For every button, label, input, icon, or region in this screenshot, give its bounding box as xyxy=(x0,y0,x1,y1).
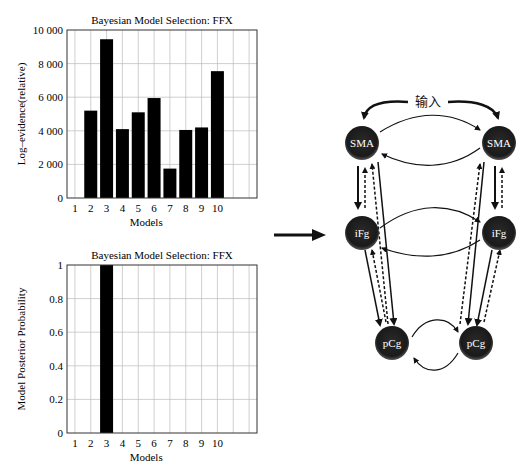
x-tick-label: 7 xyxy=(167,202,173,214)
y-tick-label: 10 000 xyxy=(33,24,64,36)
x-tick-label: 5 xyxy=(136,437,142,449)
node-sma-right: SMA xyxy=(482,126,516,160)
input-arrow-right xyxy=(448,102,498,118)
bar xyxy=(132,112,145,198)
y-axis-label: Log–evidence(relative) xyxy=(15,62,28,165)
y-tick-label: 4 000 xyxy=(38,125,63,137)
bar xyxy=(179,130,192,198)
x-tick-label: 4 xyxy=(120,437,126,449)
bar xyxy=(100,265,113,433)
bar xyxy=(163,169,176,198)
x-axis-label: Models xyxy=(130,216,163,228)
x-axis-label: Models xyxy=(130,451,163,463)
x-tick-label: 2 xyxy=(88,437,94,449)
bar xyxy=(84,111,97,198)
y-tick-label: 2 000 xyxy=(38,158,63,170)
bar xyxy=(148,98,161,198)
bar xyxy=(116,129,129,198)
y-tick-label: 6 000 xyxy=(38,91,63,103)
node-pcg-right: pCg xyxy=(459,326,493,360)
svg-text:pCg: pCg xyxy=(467,337,486,349)
x-tick-label: 10 xyxy=(212,437,224,449)
y-tick-label: 0 xyxy=(58,427,64,439)
y-tick-label: 0.4 xyxy=(49,360,63,372)
x-tick-label: 6 xyxy=(151,202,157,214)
input-label: 输入 xyxy=(415,94,441,109)
y-axis-label: Model Posterior Probability xyxy=(15,287,27,410)
x-tick-label: 6 xyxy=(151,437,157,449)
y-tick-label: 8 000 xyxy=(38,58,63,70)
x-tick-label: 8 xyxy=(183,202,189,214)
log-evidence-chart: Bayesian Model Selection: FFX02 0004 000… xyxy=(0,0,270,235)
network-diagram-svg: 输入 SMA SMA xyxy=(330,70,530,390)
x-tick-label: 3 xyxy=(104,437,110,449)
chart-title: Bayesian Model Selection: FFX xyxy=(91,14,233,26)
x-tick-label: 1 xyxy=(72,202,78,214)
x-tick-label: 3 xyxy=(104,202,110,214)
posterior-probability-chart-svg: Bayesian Model Selection: FFX00.20.40.60… xyxy=(0,240,270,473)
x-tick-label: 9 xyxy=(199,202,205,214)
bar xyxy=(211,71,224,198)
svg-text:pCg: pCg xyxy=(383,337,402,349)
y-tick-label: 0 xyxy=(58,192,64,204)
svg-text:SMA: SMA xyxy=(487,137,511,149)
x-tick-label: 4 xyxy=(120,202,126,214)
x-tick-label: 5 xyxy=(136,202,142,214)
x-tick-label: 7 xyxy=(167,437,173,449)
svg-text:SMA: SMA xyxy=(350,137,374,149)
svg-text:iFg: iFg xyxy=(355,227,370,239)
bar xyxy=(195,127,208,198)
y-tick-label: 0.8 xyxy=(49,293,63,305)
x-tick-label: 10 xyxy=(212,202,224,214)
posterior-probability-chart: Bayesian Model Selection: FFX00.20.40.60… xyxy=(0,240,270,473)
y-tick-label: 0.2 xyxy=(49,393,63,405)
y-tick-label: 0.6 xyxy=(49,326,63,338)
right-arrow-icon xyxy=(270,225,330,245)
svg-text:iFg: iFg xyxy=(492,227,507,239)
y-tick-label: 1 xyxy=(58,259,64,271)
x-tick-label: 2 xyxy=(88,202,94,214)
x-tick-label: 8 xyxy=(183,437,189,449)
log-evidence-chart-svg: Bayesian Model Selection: FFX02 0004 000… xyxy=(0,0,270,235)
bar xyxy=(100,39,113,198)
x-tick-label: 1 xyxy=(72,437,78,449)
network-diagram: 输入 SMA SMA xyxy=(330,70,530,390)
node-ifg-left: iFg xyxy=(345,216,379,250)
chart-title: Bayesian Model Selection: FFX xyxy=(91,249,233,261)
x-tick-label: 9 xyxy=(199,437,205,449)
node-sma-left: SMA xyxy=(345,126,379,160)
input-arrow-left xyxy=(364,102,408,118)
node-pcg-left: pCg xyxy=(375,326,409,360)
node-ifg-right: iFg xyxy=(482,216,516,250)
